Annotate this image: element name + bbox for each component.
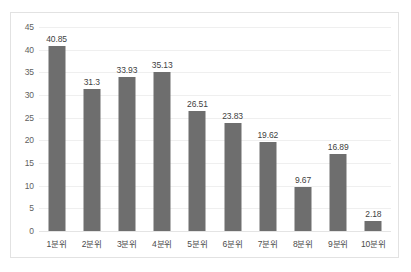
x-axis-tick-label: 4분위 xyxy=(152,237,172,249)
bar-value-label: 31.3 xyxy=(84,77,100,87)
x-axis-tick-label: 8분위 xyxy=(293,237,313,249)
y-axis-tick-label: 45 xyxy=(25,22,34,32)
bar-value-label: 33.93 xyxy=(117,65,138,75)
bar[interactable] xyxy=(48,46,65,231)
x-axis-tick-label: 2분위 xyxy=(82,237,102,249)
bar[interactable] xyxy=(154,72,171,231)
x-axis-tick-label: 9분위 xyxy=(328,237,348,249)
y-axis-tick-label: 25 xyxy=(25,113,34,123)
y-axis-tick-label: 30 xyxy=(25,90,34,100)
x-axis-tick-label: 5분위 xyxy=(187,237,207,249)
bar-group: 40.851분위 xyxy=(39,27,74,231)
bar[interactable] xyxy=(330,154,347,231)
y-axis-tick-label: 5 xyxy=(29,203,34,213)
bar[interactable] xyxy=(118,77,135,231)
bar-group: 26.515분위 xyxy=(180,27,215,231)
bar-group: 23.836분위 xyxy=(215,27,250,231)
bar[interactable] xyxy=(189,111,206,231)
bar-value-label: 9.67 xyxy=(295,175,311,185)
y-axis-tick-label: 20 xyxy=(25,135,34,145)
bar-value-label: 16.89 xyxy=(328,142,349,152)
bar-value-label: 35.13 xyxy=(152,60,173,70)
x-axis-tick-label: 6분위 xyxy=(223,237,243,249)
x-axis-tick-label: 7분위 xyxy=(258,237,278,249)
plot-area: 05101520253035404540.851분위31.32분위33.933분… xyxy=(39,27,391,231)
bar-value-label: 19.62 xyxy=(257,130,278,140)
chart-container: 05101520253035404540.851분위31.32분위33.933분… xyxy=(10,12,399,258)
bar-value-label: 23.83 xyxy=(222,111,243,121)
bar-value-label: 2.18 xyxy=(365,209,381,219)
y-axis-tick-label: 10 xyxy=(25,181,34,191)
bar-group: 9.678분위 xyxy=(285,27,320,231)
y-axis-tick-label: 40 xyxy=(25,45,34,55)
bar[interactable] xyxy=(224,123,241,231)
bar[interactable] xyxy=(83,89,100,231)
bar[interactable] xyxy=(294,187,311,231)
bar-group: 35.134분위 xyxy=(145,27,180,231)
bar-group: 31.32분위 xyxy=(74,27,109,231)
y-axis-tick-label: 15 xyxy=(25,158,34,168)
bar-group: 2.1810분위 xyxy=(356,27,391,231)
bar-value-label: 40.85 xyxy=(46,34,67,44)
bar[interactable] xyxy=(365,221,382,231)
bar-group: 16.899분위 xyxy=(321,27,356,231)
gridline: 0 xyxy=(39,231,391,232)
x-axis-tick-label: 3분위 xyxy=(117,237,137,249)
bar-group: 19.627분위 xyxy=(250,27,285,231)
x-axis-tick-label: 1분위 xyxy=(47,237,67,249)
bar[interactable] xyxy=(259,142,276,231)
bar-group: 33.933분위 xyxy=(109,27,144,231)
y-axis-tick-label: 0 xyxy=(29,226,34,236)
bar-value-label: 26.51 xyxy=(187,99,208,109)
x-axis-tick-label: 10분위 xyxy=(361,237,386,249)
y-axis-tick-label: 35 xyxy=(25,67,34,77)
